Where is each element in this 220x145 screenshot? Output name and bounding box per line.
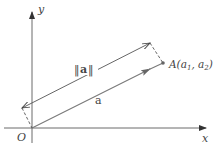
vector-a-shaft-tail xyxy=(148,63,163,70)
magnitude-label: ‖ a ‖ xyxy=(74,63,94,77)
y-axis-label: y xyxy=(37,3,45,16)
svg-text:A(a1, a2): A(a1, a2) xyxy=(168,58,213,72)
x-axis-label: x xyxy=(202,132,209,145)
dashed-extension-origin xyxy=(22,108,32,128)
svg-text:a: a xyxy=(80,63,87,76)
dashed-extension-tip xyxy=(150,43,163,63)
svg-text:‖: ‖ xyxy=(88,63,94,77)
vector-a-arrow xyxy=(32,69,150,128)
origin-label: O xyxy=(17,131,26,144)
vector-diagram: y x O a ‖ a ‖ A(a1, a2) xyxy=(0,0,220,145)
point-a-label: A(a1, a2) xyxy=(168,58,213,72)
vector-a-label: a xyxy=(95,94,102,107)
svg-text:‖: ‖ xyxy=(74,63,80,77)
